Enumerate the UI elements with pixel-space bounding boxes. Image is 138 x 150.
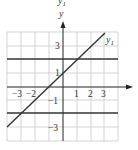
- y-tick-1: 1: [55, 68, 60, 78]
- y-tick-minus-1: −1: [48, 96, 58, 106]
- x-tick-minus-2: −2: [26, 89, 36, 99]
- x-tick-minus-3: −3: [12, 89, 22, 99]
- line-y1-label: y1: [105, 34, 114, 47]
- y-tick-minus-3: −3: [48, 123, 58, 133]
- y-axis-label: y: [58, 8, 64, 19]
- y-axis-arrow-icon: [61, 21, 66, 28]
- x-tick-2: 2: [88, 89, 93, 99]
- y-tick-3: 3: [55, 41, 60, 51]
- x-tick-1: 1: [74, 89, 79, 99]
- x-tick-3: 3: [101, 89, 106, 99]
- chart-canvas: y1 y y1 −3 −2 1 2 3 3 1 −1 −3: [0, 0, 138, 150]
- x-axis-arrow-icon: [126, 85, 133, 90]
- top-cut-label: y1: [57, 0, 66, 8]
